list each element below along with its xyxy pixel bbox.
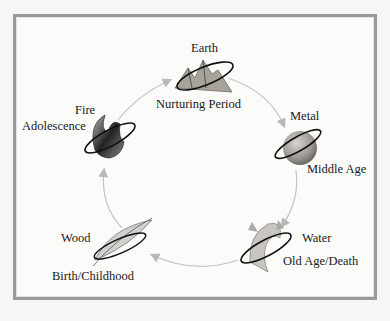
wood-stage-label: Birth/Childhood xyxy=(52,270,134,283)
metal-label: Metal xyxy=(290,110,319,123)
arrow-metal-to-water xyxy=(282,170,297,226)
arrow-wood-to-fire xyxy=(103,170,122,228)
mountain-icon xyxy=(174,56,236,95)
fire-stage-label: Adolescence xyxy=(22,120,86,133)
metal-stage-label: Middle Age xyxy=(307,163,366,176)
wood-label: Wood xyxy=(61,232,91,245)
leaf-icon xyxy=(92,218,152,266)
fire-label: Fire xyxy=(75,104,95,117)
earth-stage-label: Nurturing Period xyxy=(156,98,241,111)
earth-label: Earth xyxy=(191,42,218,55)
flame-icon xyxy=(82,115,139,158)
arrow-water-to-wood xyxy=(152,255,238,266)
water-label: Water xyxy=(302,232,332,245)
water-stage-label: Old Age/Death xyxy=(283,255,358,268)
metal-sphere-icon xyxy=(272,125,324,165)
